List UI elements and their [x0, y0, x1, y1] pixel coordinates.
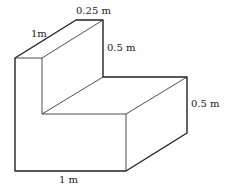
edge-lower-top-right	[126, 77, 187, 114]
label-lower-height: 0.5 m	[191, 98, 220, 109]
label-depth: 1m	[31, 28, 47, 39]
l-shaped-solid-diagram: 0.25 m 1m 0.5 m 0.5 m 1 m	[0, 0, 230, 191]
edge-upper-top-right	[42, 20, 103, 58]
label-top-width: 0.25 m	[76, 5, 111, 16]
edge-step-diagonal	[42, 77, 103, 114]
label-upper-height: 0.5 m	[107, 42, 136, 53]
label-base-length: 1 m	[59, 174, 79, 185]
outline	[15, 20, 187, 171]
